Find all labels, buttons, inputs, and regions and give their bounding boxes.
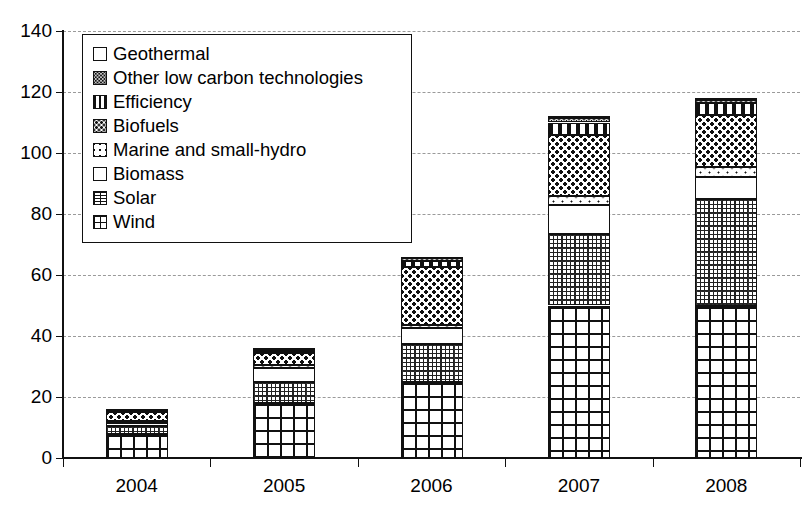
chart-legend: GeothermalOther low carbon technologiesE… [82,34,412,243]
legend-item-label: Biomass [113,164,184,184]
x-axis-category-label: 2005 [263,475,305,497]
bar-segment-2006-solar[interactable] [401,344,463,382]
bar-segment-2007-biofuels[interactable] [548,135,610,196]
bar-segment-2008-geothermal[interactable] [695,98,757,100]
legend-item-geothermal[interactable]: Geothermal [93,42,401,66]
bar-segment-2008-marine-and-small-hydro[interactable] [695,167,757,178]
legend-swatch-icon [93,95,107,109]
legend-swatch-icon [93,143,107,157]
bar-segment-2004-solar[interactable] [106,426,168,434]
x-axis-tick [63,458,64,467]
x-axis-tick [505,458,506,467]
bar-segment-2008-biomass[interactable] [695,177,757,198]
legend-item-solar[interactable]: Solar [93,186,401,210]
x-axis-category-label: 2004 [116,475,158,497]
bar-segment-2007-wind[interactable] [548,306,610,459]
bar-segment-2004-marine-and-small-hydro[interactable] [106,421,168,423]
legend-item-biofuels[interactable]: Biofuels [93,114,401,138]
bar-2007[interactable] [548,31,610,458]
legend-item-efficiency[interactable]: Efficiency [93,90,401,114]
x-axis-tick [210,458,211,467]
bar-segment-2007-marine-and-small-hydro[interactable] [548,196,610,205]
bar-segment-2007-geothermal[interactable] [548,116,610,118]
x-axis-tick [653,458,654,467]
x-axis-category-label: 2006 [410,475,452,497]
legend-item-label: Biofuels [113,116,179,136]
bar-2008[interactable] [695,31,757,458]
bar-segment-2007-other-low-carbon-technologies[interactable] [548,118,610,123]
y-axis-tick-label: 80 [0,203,52,225]
y-axis-tick-label: 60 [0,264,52,286]
y-axis-tick [56,214,64,215]
bar-segment-2007-efficiency[interactable] [548,123,610,135]
y-axis-tick-label: 40 [0,325,52,347]
bar-segment-2006-biomass[interactable] [401,328,463,343]
bar-segment-2004-biofuels[interactable] [106,412,168,421]
legend-item-other-low-carbon-technologies[interactable]: Other low carbon technologies [93,66,401,90]
y-axis-tick [56,397,64,398]
x-axis-category-label: 2008 [705,475,747,497]
bar-segment-2004-wind[interactable] [106,434,168,458]
bar-segment-2006-geothermal[interactable] [401,257,463,259]
bar-segment-2006-wind[interactable] [401,382,463,458]
bar-segment-2005-geothermal[interactable] [253,348,315,350]
y-axis-tick-label: 20 [0,386,52,408]
legend-swatch-icon [93,167,107,181]
bar-segment-2008-solar[interactable] [695,199,757,306]
legend-item-label: Solar [113,188,156,208]
legend-swatch-icon [93,215,107,229]
legend-item-label: Marine and small-hydro [113,140,306,160]
y-axis-tick [56,336,64,337]
y-axis-tick [56,92,64,93]
bar-segment-2005-marine-and-small-hydro[interactable] [253,365,315,368]
y-axis-tick-label: 120 [0,81,52,103]
bar-segment-2005-wind[interactable] [253,403,315,458]
legend-swatch-icon [93,191,107,205]
y-axis-tick-label: 100 [0,142,52,164]
bar-segment-2005-biofuels[interactable] [253,353,315,365]
stacked-bar-chart: 02040608010012014020042005200620072008 G… [0,0,806,509]
y-axis-tick [56,31,64,32]
legend-swatch-icon [93,71,107,85]
legend-swatch-icon [93,47,107,61]
bar-segment-2005-solar[interactable] [253,382,315,403]
x-axis-tick [800,458,801,467]
y-axis-tick [56,275,64,276]
legend-item-label: Wind [113,212,155,232]
legend-item-label: Geothermal [113,44,210,64]
legend-item-label: Other low carbon technologies [113,68,363,88]
bar-segment-2005-biomass[interactable] [253,368,315,382]
bar-segment-2006-efficiency[interactable] [401,261,463,267]
y-axis-tick-label: 140 [0,20,52,42]
legend-item-wind[interactable]: Wind [93,210,401,234]
bar-segment-2008-wind[interactable] [695,306,757,459]
y-axis-tick-label: 0 [0,447,52,469]
bar-segment-2006-marine-and-small-hydro[interactable] [401,325,463,328]
legend-swatch-icon [93,119,107,133]
bar-segment-2006-biofuels[interactable] [401,267,463,325]
y-axis-tick [56,153,64,154]
legend-item-label: Efficiency [113,92,192,112]
bar-segment-2008-biofuels[interactable] [695,115,757,167]
legend-item-marine-and-small-hydro[interactable]: Marine and small-hydro [93,138,401,162]
bar-segment-2008-efficiency[interactable] [695,103,757,115]
bar-segment-2007-solar[interactable] [548,234,610,306]
bar-segment-2007-biomass[interactable] [548,205,610,234]
bar-segment-2004-geothermal[interactable] [106,409,168,411]
x-axis-category-label: 2007 [558,475,600,497]
x-axis-tick [358,458,359,467]
legend-item-biomass[interactable]: Biomass [93,162,401,186]
